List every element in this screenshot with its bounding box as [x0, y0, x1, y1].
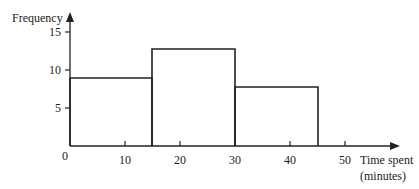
- y-axis-label: Frequency: [12, 11, 63, 25]
- histogram-bars: [70, 49, 318, 146]
- x-tick-label-50: 50: [339, 153, 351, 167]
- y-tick-label-10: 10: [49, 63, 61, 77]
- bar-30-45: [235, 87, 318, 146]
- x-ticks: [125, 141, 345, 146]
- x-tick-label-40: 40: [284, 153, 296, 167]
- axes: [70, 20, 392, 146]
- x-tick-label-10: 10: [119, 153, 131, 167]
- x-tick-label-20: 20: [174, 153, 186, 167]
- x-axis-label-line1: Time spent: [360, 153, 414, 167]
- histogram-chart: Frequency 15 10 5 0 10 20 30 40 50 Time …: [0, 0, 419, 189]
- x-tick-label-30: 30: [229, 153, 241, 167]
- origin-label: 0: [62, 149, 68, 163]
- y-tick-label-5: 5: [55, 101, 61, 115]
- bar-15-30: [152, 49, 235, 146]
- y-axis-arrow-icon: [66, 12, 74, 22]
- bar-0-15: [70, 78, 152, 146]
- x-axis-label-line2: (minutes): [360, 169, 406, 183]
- y-tick-label-15: 15: [49, 25, 61, 39]
- x-axis-arrow-icon: [390, 142, 400, 150]
